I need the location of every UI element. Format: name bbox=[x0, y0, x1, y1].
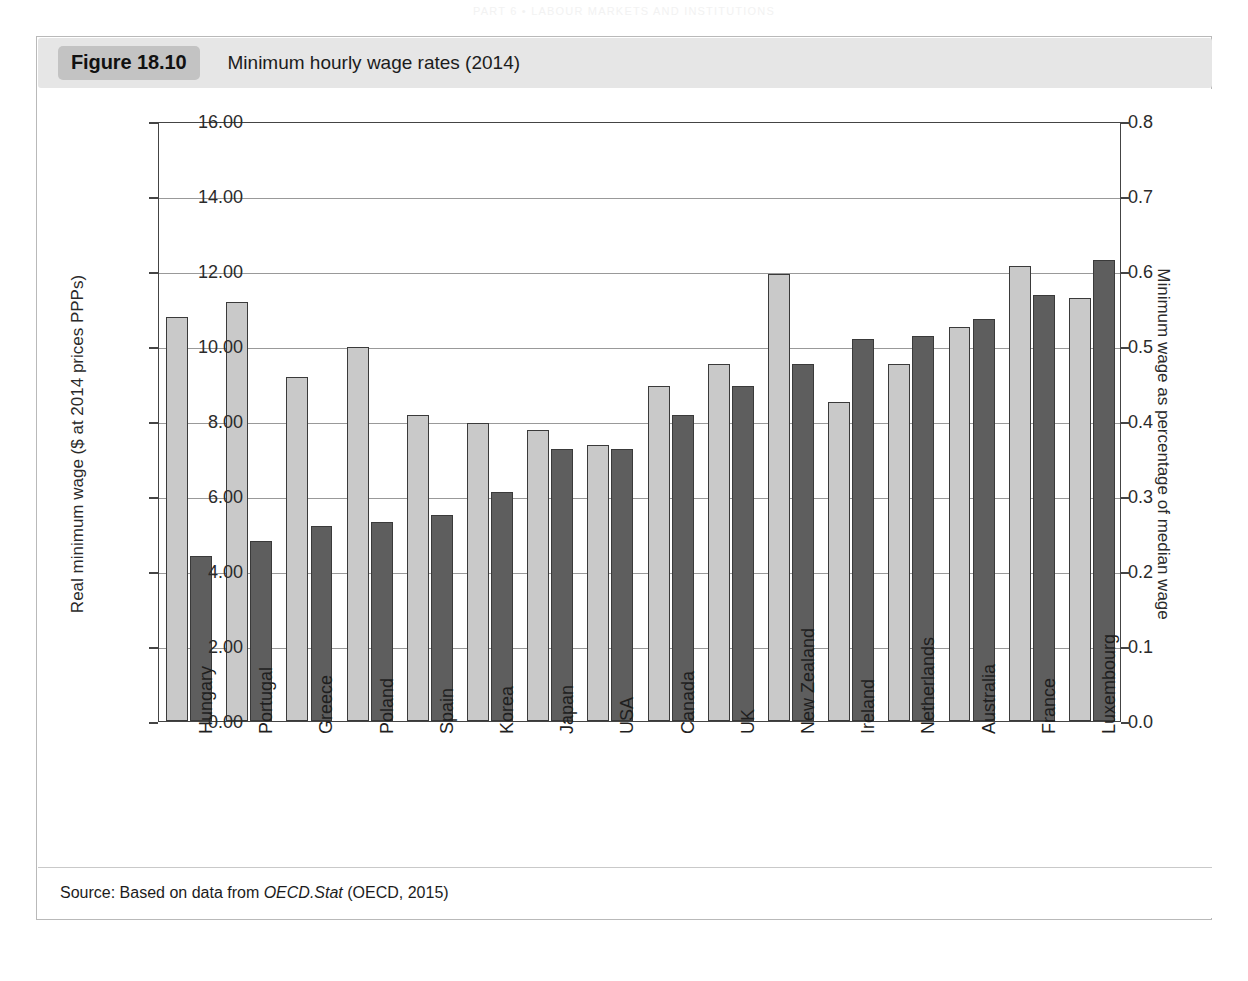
bar-group bbox=[340, 123, 400, 721]
y-axis-right-tick-label: 0.2 bbox=[1128, 563, 1198, 581]
y-axis-left-tick-mark bbox=[149, 122, 158, 124]
bar-real-minimum-wage bbox=[708, 364, 730, 721]
bar-group bbox=[580, 123, 640, 721]
y-axis-left-tick-label: 6.00 bbox=[153, 488, 243, 506]
bar-minimum-wage-pct-median bbox=[551, 449, 573, 721]
figure-container: Figure 18.10 Minimum hourly wage rates (… bbox=[36, 36, 1212, 920]
bar-group bbox=[881, 123, 941, 721]
figure-caption-band: Figure 18.10 Minimum hourly wage rates (… bbox=[38, 38, 1212, 88]
y-axis-right-tick-label: 0.4 bbox=[1128, 413, 1198, 431]
bar-real-minimum-wage bbox=[587, 445, 609, 721]
y-axis-left-tick-mark bbox=[149, 197, 158, 199]
bar-group bbox=[460, 123, 520, 721]
y-axis-right-tick-mark bbox=[1121, 197, 1130, 199]
bar-minimum-wage-pct-median bbox=[732, 386, 754, 721]
bar-real-minimum-wage bbox=[226, 302, 248, 721]
figure-title: Minimum hourly wage rates (2014) bbox=[228, 52, 521, 74]
y-axis-left-tick-mark bbox=[149, 272, 158, 274]
y-axis-left-tick-mark bbox=[149, 722, 158, 724]
bar-minimum-wage-pct-median bbox=[611, 449, 633, 721]
y-axis-right-tick-mark bbox=[1121, 572, 1130, 574]
bar-real-minimum-wage bbox=[286, 377, 308, 721]
y-axis-left-tick-mark bbox=[149, 572, 158, 574]
bar-real-minimum-wage bbox=[1009, 266, 1031, 721]
y-axis-right-tick-mark bbox=[1121, 722, 1130, 724]
bar-group bbox=[400, 123, 460, 721]
bar-real-minimum-wage bbox=[828, 402, 850, 721]
figure-number-badge: Figure 18.10 bbox=[58, 46, 200, 80]
bar-real-minimum-wage bbox=[347, 347, 369, 721]
source-prefix: Source: Based on data from bbox=[60, 884, 264, 901]
bar-group bbox=[1002, 123, 1062, 721]
x-axis-tick-label: Spain bbox=[437, 688, 458, 734]
bar-real-minimum-wage bbox=[467, 423, 489, 722]
x-axis-tick-label: Poland bbox=[377, 678, 398, 734]
y-axis-left-tick-label: 14.00 bbox=[153, 188, 243, 206]
bar-group bbox=[641, 123, 701, 721]
x-axis-tick-label: UK bbox=[738, 709, 759, 734]
bar-real-minimum-wage bbox=[888, 364, 910, 721]
y-axis-right-tick-mark bbox=[1121, 272, 1130, 274]
bar-group bbox=[701, 123, 761, 721]
bar-real-minimum-wage bbox=[768, 274, 790, 721]
x-axis-tick-label: France bbox=[1039, 678, 1060, 734]
bar-minimum-wage-pct-median bbox=[973, 319, 995, 721]
y-axis-left-tick-mark bbox=[149, 347, 158, 349]
y-axis-left-tick-label: 10.00 bbox=[153, 338, 243, 356]
y-axis-right-tick-label: 0.3 bbox=[1128, 488, 1198, 506]
bar-group bbox=[1062, 123, 1122, 721]
y-axis-right-tick-mark bbox=[1121, 122, 1130, 124]
y-axis-right-tick-mark bbox=[1121, 497, 1130, 499]
x-axis-tick-label: New Zealand bbox=[798, 628, 819, 734]
chart-canvas: Real minimum wage ($ at 2014 prices PPPs… bbox=[38, 89, 1212, 869]
source-italic: OECD.Stat bbox=[264, 884, 343, 901]
x-axis-tick-label: Netherlands bbox=[918, 637, 939, 734]
bar-group bbox=[520, 123, 580, 721]
x-axis-tick-label: Ireland bbox=[858, 679, 879, 734]
bar-real-minimum-wage bbox=[949, 327, 971, 721]
x-axis-tick-label: Canada bbox=[678, 671, 699, 734]
y-axis-right-tick-mark bbox=[1121, 647, 1130, 649]
y-axis-left-tick-label: 16.00 bbox=[153, 113, 243, 131]
y-axis-left-tick-mark bbox=[149, 647, 158, 649]
x-axis-tick-label: Hungary bbox=[196, 666, 217, 734]
x-axis-tick-label: Portugal bbox=[256, 667, 277, 734]
y-axis-right-tick-mark bbox=[1121, 422, 1130, 424]
y-axis-right-tick-label: 0.5 bbox=[1128, 338, 1198, 356]
y-axis-right-tick-label: 0.6 bbox=[1128, 263, 1198, 281]
bar-minimum-wage-pct-median bbox=[852, 339, 874, 722]
x-axis-tick-label: Japan bbox=[557, 685, 578, 734]
y-axis-right-tick-mark bbox=[1121, 347, 1130, 349]
bar-real-minimum-wage bbox=[166, 317, 188, 721]
page-running-head: PART 6 • LABOUR MARKETS AND INSTITUTIONS bbox=[0, 0, 1248, 22]
y-axis-right-tick-label: 0.8 bbox=[1128, 113, 1198, 131]
y-axis-left-tick-label: 2.00 bbox=[153, 638, 243, 656]
y-axis-left-tick-label: 8.00 bbox=[153, 413, 243, 431]
x-axis-tick-label: Australia bbox=[979, 664, 1000, 734]
x-axis-tick-label: Luxembourg bbox=[1099, 634, 1120, 734]
x-axis-tick-label: Korea bbox=[497, 686, 518, 734]
x-axis-tick-label: Greece bbox=[316, 675, 337, 734]
bar-real-minimum-wage bbox=[527, 430, 549, 721]
bar-minimum-wage-pct-median bbox=[1033, 295, 1055, 721]
x-axis-tick-label: USA bbox=[617, 697, 638, 734]
y-axis-left-tick-mark bbox=[149, 497, 158, 499]
figure-source-band: Source: Based on data from OECD.Stat (OE… bbox=[38, 867, 1212, 918]
y-axis-right-tick-label: 0.0 bbox=[1128, 713, 1198, 731]
source-suffix: (OECD, 2015) bbox=[343, 884, 449, 901]
plot-area bbox=[158, 122, 1121, 722]
y-axis-left-tick-mark bbox=[149, 422, 158, 424]
y-axis-left-title: Real minimum wage ($ at 2014 prices PPPs… bbox=[68, 164, 88, 724]
bar-series-container bbox=[159, 123, 1120, 721]
y-axis-left-tick-label: 4.00 bbox=[153, 563, 243, 581]
bar-real-minimum-wage bbox=[1069, 298, 1091, 721]
bar-real-minimum-wage bbox=[407, 415, 429, 721]
source-note: Source: Based on data from OECD.Stat (OE… bbox=[60, 884, 449, 902]
bar-group bbox=[821, 123, 881, 721]
bar-group bbox=[941, 123, 1001, 721]
y-axis-right-tick-label: 0.1 bbox=[1128, 638, 1198, 656]
bar-real-minimum-wage bbox=[648, 386, 670, 721]
y-axis-left-tick-label: 12.00 bbox=[153, 263, 243, 281]
bar-group bbox=[279, 123, 339, 721]
y-axis-right-tick-label: 0.7 bbox=[1128, 188, 1198, 206]
